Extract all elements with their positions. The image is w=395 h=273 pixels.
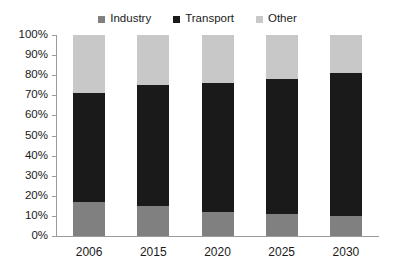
bar-stack <box>330 35 362 236</box>
y-axis-tick-label: 0% <box>31 229 48 241</box>
bar-group[interactable] <box>137 35 169 236</box>
legend-entry[interactable]: Other <box>256 13 297 25</box>
bar-segment-industry[interactable] <box>73 202 105 236</box>
x-axis-tick-label: 2015 <box>121 245 185 259</box>
x-axis-line <box>56 236 379 237</box>
bar-segment-industry[interactable] <box>202 212 234 236</box>
plot-area <box>57 35 378 236</box>
legend-entry[interactable]: Industry <box>98 13 151 25</box>
bar-segment-transport[interactable] <box>73 93 105 202</box>
y-axis-tick-label: 40% <box>25 149 48 161</box>
legend-swatch-icon <box>98 16 105 23</box>
bar-stack <box>137 35 169 236</box>
legend-swatch-icon <box>173 16 180 23</box>
bar-segment-other[interactable] <box>266 35 298 79</box>
chart-legend: IndustryTransportOther <box>0 11 395 27</box>
y-axis-tick-label: 100% <box>19 28 48 40</box>
y-axis-tick-label: 30% <box>25 169 48 181</box>
legend-entry[interactable]: Transport <box>173 13 234 25</box>
y-axis-tick-label: 70% <box>25 88 48 100</box>
bar-stack <box>73 35 105 236</box>
y-axis-tick-label: 90% <box>25 48 48 60</box>
bar-segment-transport[interactable] <box>202 83 234 212</box>
bar-segment-industry[interactable] <box>330 216 362 236</box>
stacked-bar-chart: IndustryTransportOther 100%90%80%70%60%5… <box>0 0 395 273</box>
bar-group[interactable] <box>266 35 298 236</box>
bar-segment-other[interactable] <box>137 35 169 85</box>
y-axis-tick-label: 80% <box>25 68 48 80</box>
y-axis-tick-label: 20% <box>25 189 48 201</box>
bar-segment-transport[interactable] <box>137 85 169 206</box>
y-axis-tick-label: 50% <box>25 129 48 141</box>
bar-stack <box>202 35 234 236</box>
y-axis-tick-label: 10% <box>25 209 48 221</box>
legend-label: Other <box>268 13 297 25</box>
bar-segment-other[interactable] <box>330 35 362 73</box>
bar-group[interactable] <box>73 35 105 236</box>
bar-segment-other[interactable] <box>202 35 234 83</box>
bar-segment-industry[interactable] <box>266 214 298 236</box>
x-axis-tick-label: 2020 <box>185 245 249 259</box>
y-axis-tick-label: 60% <box>25 108 48 120</box>
y-axis-tick-mark <box>52 236 57 237</box>
bar-group[interactable] <box>202 35 234 236</box>
legend-label: Industry <box>110 13 151 25</box>
bar-segment-other[interactable] <box>73 35 105 93</box>
x-axis-tick-label: 2025 <box>250 245 314 259</box>
bar-group[interactable] <box>330 35 362 236</box>
bar-segment-transport[interactable] <box>266 79 298 214</box>
bar-segment-transport[interactable] <box>330 73 362 216</box>
bar-stack <box>266 35 298 236</box>
x-axis-tick-label: 2006 <box>57 245 121 259</box>
x-axis-tick-label: 2030 <box>314 245 378 259</box>
legend-label: Transport <box>185 13 234 25</box>
legend-swatch-icon <box>256 16 263 23</box>
bar-segment-industry[interactable] <box>137 206 169 236</box>
